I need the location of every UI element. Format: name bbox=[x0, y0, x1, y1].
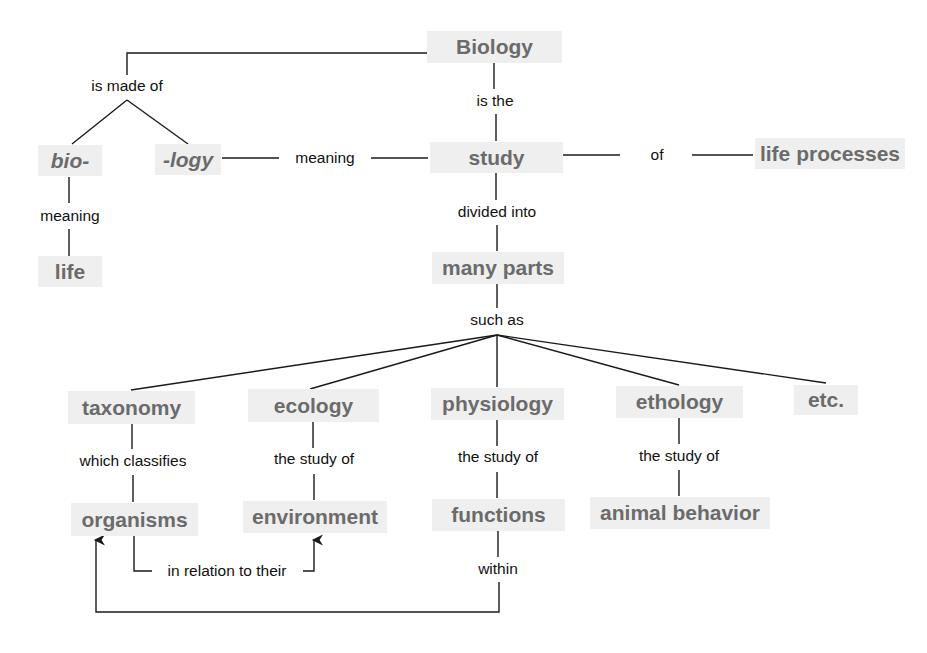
link-physiology-study-of: the study of bbox=[456, 448, 540, 466]
link-ecology-study-of: the study of bbox=[272, 450, 356, 468]
concept-biology: Biology bbox=[427, 31, 562, 63]
concept-etc: etc. bbox=[794, 385, 858, 415]
concept-taxonomy: taxonomy bbox=[68, 391, 195, 424]
concept-physiology: physiology bbox=[431, 388, 564, 420]
concept-bio-prefix: bio- bbox=[38, 145, 102, 176]
concept-environment: environment bbox=[243, 501, 387, 533]
link-ethology-study-of: the study of bbox=[637, 447, 721, 465]
link-of: of bbox=[649, 146, 666, 164]
link-divided-into: divided into bbox=[456, 203, 538, 221]
concept-study: study bbox=[430, 142, 563, 173]
link-such-as: such as bbox=[468, 311, 525, 329]
concept-organisms: organisms bbox=[71, 503, 198, 536]
link-is-made-of: is made of bbox=[89, 77, 165, 95]
concept-animal-behavior: animal behavior bbox=[590, 497, 770, 529]
link-is-the: is the bbox=[474, 92, 515, 110]
link-logy-meaning: meaning bbox=[293, 149, 356, 167]
concept-life: life bbox=[38, 256, 102, 287]
link-bio-meaning: meaning bbox=[38, 207, 101, 225]
concept-logy-suffix: -logy bbox=[155, 144, 221, 175]
concept-ecology: ecology bbox=[248, 389, 379, 422]
concept-ethology: ethology bbox=[616, 386, 743, 418]
concept-functions: functions bbox=[432, 499, 565, 531]
concept-many-parts: many parts bbox=[432, 252, 564, 284]
connector-lines bbox=[0, 0, 927, 653]
link-which-classifies: which classifies bbox=[78, 452, 189, 470]
link-within: within bbox=[476, 560, 520, 578]
concept-life-processes: life processes bbox=[755, 138, 905, 169]
link-in-relation-to-their: in relation to their bbox=[166, 562, 289, 580]
